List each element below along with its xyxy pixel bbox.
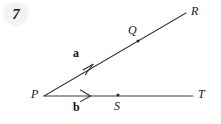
vector-label-b: b	[73, 101, 80, 113]
point-Q-dot	[137, 40, 140, 43]
geometry-figure: 7 P Q R S T a b	[0, 0, 221, 124]
point-S-dot	[117, 94, 120, 97]
question-number-badge: 7	[3, 2, 29, 27]
ray-PR-line	[44, 13, 186, 96]
question-number-text: 7	[12, 7, 20, 22]
vector-a-arrowhead	[83, 64, 93, 75]
point-label-T: T	[198, 88, 205, 100]
point-label-P: P	[31, 88, 38, 100]
figure-canvas	[0, 0, 221, 124]
point-label-Q: Q	[128, 24, 137, 36]
point-label-S: S	[114, 100, 120, 112]
vector-label-a: a	[73, 47, 79, 59]
point-label-R: R	[191, 5, 198, 17]
